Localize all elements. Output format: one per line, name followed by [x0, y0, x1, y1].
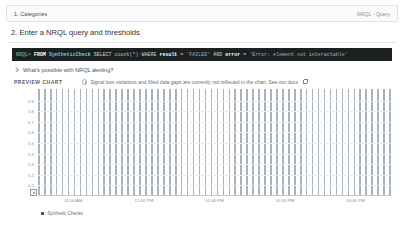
chart-bar[interactable]: [258, 89, 260, 195]
chart-bar[interactable]: [217, 89, 219, 195]
section-categories-meta: NRQL - Query: [357, 11, 390, 17]
chart-bar[interactable]: [38, 89, 40, 195]
chart-x-tick-label: 12:00 PM: [134, 198, 153, 203]
chart-bar[interactable]: [211, 89, 213, 195]
chart-legend[interactable]: Synthetic Checks: [41, 211, 83, 216]
chart-bar[interactable]: [276, 89, 278, 195]
chart-bar[interactable]: [205, 89, 207, 195]
chart-bar[interactable]: [336, 89, 338, 195]
chart-bar[interactable]: [354, 89, 356, 195]
section-categories-collapsed[interactable]: 1. Categories NRQL - Query: [6, 5, 398, 22]
chart-y-tick-label: 0.6: [28, 130, 34, 135]
chart-gridline: [38, 143, 391, 144]
chart-bar[interactable]: [50, 89, 52, 195]
chart-bar[interactable]: [92, 89, 94, 195]
chart-bar[interactable]: [229, 89, 231, 195]
chart-bar[interactable]: [157, 89, 159, 195]
chart-bar[interactable]: [359, 89, 361, 195]
chart-x-tick-label: 11:00 AM: [64, 198, 82, 203]
query-table-name: SyntheticCheck: [49, 48, 91, 61]
chart-x-tick-label: 02:00 PM: [276, 198, 295, 203]
chart-bar[interactable]: [240, 89, 242, 195]
chart-gridline: [38, 175, 391, 176]
chart-y-tick-label: 0.9: [28, 98, 34, 103]
chart-gridline: [38, 132, 391, 133]
preview-chart-label: PREVIEW CHART: [14, 79, 82, 85]
chart-bar[interactable]: [169, 89, 171, 195]
query-select-keyword: SELECT: [94, 48, 112, 61]
nrql-help-disclosure[interactable]: What's possible with NRQL alerting?: [7, 61, 397, 73]
legend-swatch-icon: [41, 212, 44, 215]
chart-bar[interactable]: [288, 89, 290, 195]
chart-bar[interactable]: [187, 89, 189, 195]
chart-bar[interactable]: [389, 89, 391, 195]
chart-gridline: [38, 101, 391, 102]
chart-origin-icon[interactable]: [30, 189, 37, 196]
chart-bar[interactable]: [62, 89, 64, 195]
chart-bar[interactable]: [139, 89, 141, 195]
preview-chart-notice: Signal loss violations and filled data g…: [82, 79, 307, 85]
chart-y-tick-label: 0.4: [28, 151, 34, 156]
section-query-title: 2. Enter a NRQL query and thresholds: [7, 28, 397, 43]
chart-bar[interactable]: [252, 89, 254, 195]
chart-bar[interactable]: [44, 89, 46, 195]
query-second-field: error: [225, 48, 240, 61]
chart-bar[interactable]: [121, 89, 123, 195]
chart-bar[interactable]: [103, 89, 105, 195]
chart-bar[interactable]: [56, 89, 58, 195]
chart-bar[interactable]: [264, 89, 266, 195]
chart-bar[interactable]: [127, 89, 129, 195]
chart-bar[interactable]: [163, 89, 165, 195]
chart-bar[interactable]: [223, 89, 225, 195]
chart-bar[interactable]: [74, 89, 76, 195]
preview-chart-notice-text: Signal loss violations and filled data g…: [90, 79, 298, 85]
nrql-help-label: What's possible with NRQL alerting?: [23, 67, 113, 73]
chart-bar[interactable]: [300, 89, 302, 195]
chart-bar[interactable]: [377, 89, 379, 195]
chart-bar[interactable]: [318, 89, 320, 195]
chart-bar[interactable]: [371, 89, 373, 195]
query-editor-wrap: NRQL> FROM SyntheticCheck SELECT count(*…: [7, 43, 397, 61]
chart-bar[interactable]: [294, 89, 296, 195]
chart-bar[interactable]: [365, 89, 367, 195]
chart-bar[interactable]: [109, 89, 111, 195]
chart-bar[interactable]: [330, 89, 332, 195]
chart-bar[interactable]: [115, 89, 117, 195]
legend-label-synthetic-checks: Synthetic Checks: [47, 211, 83, 216]
chart-bar[interactable]: [306, 89, 308, 195]
chart-bar[interactable]: [133, 89, 135, 195]
chart-plot-area[interactable]: [38, 90, 391, 196]
chart-bar[interactable]: [199, 89, 201, 195]
chart-bar[interactable]: [86, 89, 88, 195]
chart-y-tick-label: 0.5: [28, 141, 34, 146]
chart-bar[interactable]: [175, 89, 177, 195]
chart-bar[interactable]: [270, 89, 272, 195]
chart-bar[interactable]: [181, 89, 183, 195]
query-where-keyword: WHERE: [142, 48, 157, 61]
chart-bar[interactable]: [193, 89, 195, 195]
chart-bar[interactable]: [348, 89, 350, 195]
chart-bar[interactable]: [246, 89, 248, 195]
preview-chart: 0.90.80.70.60.50.40.30.20.1 11:00 AM12:0…: [11, 90, 393, 220]
chart-bar[interactable]: [282, 89, 284, 195]
chart-bar[interactable]: [324, 89, 326, 195]
chart-gridline: [38, 111, 391, 112]
chart-bar[interactable]: [68, 89, 70, 195]
chart-y-tick-label: 0.7: [28, 119, 34, 124]
chart-y-tick-label: 0.1: [28, 183, 34, 188]
chart-bar[interactable]: [98, 89, 100, 195]
preview-chart-header: PREVIEW CHART Signal loss violations and…: [7, 73, 397, 85]
nrql-query-input[interactable]: NRQL> FROM SyntheticCheck SELECT count(*…: [12, 48, 392, 61]
chart-bar[interactable]: [312, 89, 314, 195]
chart-bar[interactable]: [234, 89, 236, 195]
chart-bar[interactable]: [383, 89, 385, 195]
chart-bar[interactable]: [342, 89, 344, 195]
chart-bar[interactable]: [80, 89, 82, 195]
chart-gridline: [38, 122, 391, 123]
chart-bar[interactable]: [145, 89, 147, 195]
nrql-alert-condition-page: 1. Categories NRQL - Query 2. Enter a NR…: [0, 0, 404, 241]
chart-y-tick-label: 0.3: [28, 162, 34, 167]
external-link-icon[interactable]: [303, 80, 307, 84]
chart-bar[interactable]: [151, 89, 153, 195]
info-circle-icon: [82, 79, 87, 84]
